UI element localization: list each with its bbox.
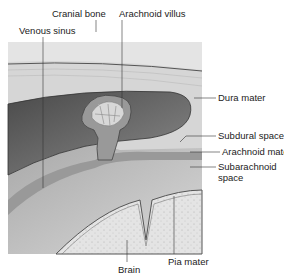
label-arachnoid-mater: Arachnoid mater [222,146,284,157]
label-subarachnoid-space: Subarachnoid space [218,161,277,183]
label-brain: Brain [118,264,140,275]
label-arachnoid-villus: Arachnoid villus [119,8,186,19]
label-dura-mater: Dura mater [218,92,266,103]
label-subdural-space: Subdural space [218,130,284,141]
label-subarachnoid-line2: space [218,172,243,183]
label-cranial-bone: Cranial bone [52,8,106,19]
label-pia-mater: Pia mater [168,256,209,267]
label-venous-sinus: Venous sinus [19,25,76,36]
label-subarachnoid-line1: Subarachnoid [218,161,277,172]
